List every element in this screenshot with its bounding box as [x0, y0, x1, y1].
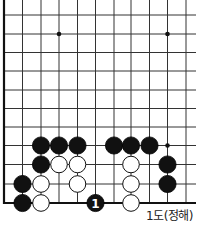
black-stone — [105, 137, 122, 154]
star-point-icon — [165, 32, 170, 37]
white-stone — [33, 176, 50, 193]
white-stone — [51, 156, 68, 173]
white-stone — [123, 195, 140, 212]
go-diagram: 1 1도(정해) — [0, 0, 200, 229]
black-stone — [14, 194, 31, 211]
white-stone — [123, 156, 140, 173]
star-point-icon — [165, 143, 170, 148]
black-stone — [141, 137, 158, 154]
white-stone — [33, 195, 50, 212]
black-stone — [69, 137, 86, 154]
black-stone — [122, 137, 139, 154]
black-stone — [32, 156, 49, 173]
black-stone — [50, 137, 67, 154]
white-stone — [123, 176, 140, 193]
move-number-label: 1 — [91, 197, 99, 211]
black-stone — [14, 175, 31, 192]
star-point-icon — [57, 32, 62, 37]
white-stone — [69, 156, 86, 173]
black-stone — [32, 137, 49, 154]
black-stone — [159, 175, 176, 192]
black-stone — [159, 156, 176, 173]
go-board: 1 — [0, 0, 200, 229]
white-stone — [69, 176, 86, 193]
diagram-caption: 1도(정해) — [146, 206, 198, 223]
